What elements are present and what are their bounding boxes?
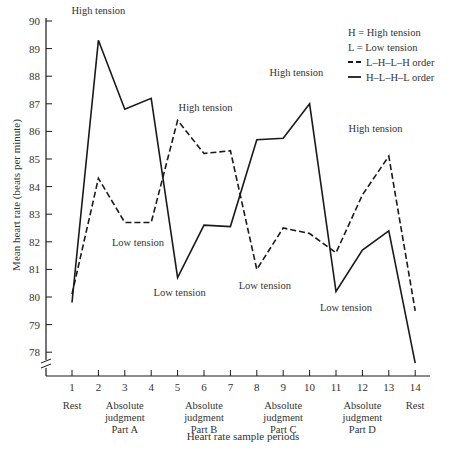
y-axis-title: Mean heart rate (beats per minute) [10, 119, 23, 271]
annotation-label: High tension [179, 102, 234, 113]
legend-note: H = High tension [348, 27, 421, 38]
x-tick-label: 6 [201, 381, 207, 393]
period-label: Absolute [264, 400, 302, 411]
y-tick-label: 80 [29, 291, 41, 303]
annotation-label: High tension [349, 123, 404, 134]
period-label: judgment [183, 412, 224, 423]
series-hlhl-line [72, 40, 415, 363]
annotation-label: Low tension [320, 302, 373, 313]
period-label: judgment [104, 412, 145, 423]
x-tick-label: 7 [228, 381, 234, 393]
annotation-label: Low tension [112, 237, 165, 248]
annotation-label: High tension [269, 67, 324, 78]
legend: H = High tensionL = Low tensionL–H–L–H o… [348, 27, 435, 83]
x-tick-label: 11 [331, 381, 342, 393]
x-axis: 1234567891011121314RestAbsolutejudgmentP… [46, 370, 430, 435]
legend-entry-label: L–H–L–H order [366, 57, 435, 68]
legend-note: L = Low tension [348, 42, 418, 53]
y-tick-label: 79 [29, 319, 41, 331]
y-tick-label: 89 [29, 43, 41, 55]
x-axis-title: Heart rate sample periods [187, 430, 300, 442]
heart-rate-chart: 78798081828384858687888990 1234567891011… [0, 0, 452, 454]
series-layer [72, 40, 415, 363]
x-tick-label: 5 [175, 381, 181, 393]
annotation-label: Low tension [153, 287, 206, 298]
y-tick-label: 87 [29, 98, 41, 110]
x-tick-label: 1 [69, 381, 75, 393]
annotation-label: High tension [71, 5, 126, 16]
period-label: Absolute [343, 400, 381, 411]
x-tick-label: 10 [304, 381, 316, 393]
period-label: judgment [262, 412, 303, 423]
period-label: Absolute [106, 400, 144, 411]
period-label: Rest [406, 400, 425, 411]
period-label: Part A [112, 424, 139, 435]
x-tick-label: 4 [148, 381, 154, 393]
period-label: Part D [349, 424, 377, 435]
y-tick-label: 82 [29, 236, 40, 248]
y-tick-label: 88 [29, 70, 41, 82]
annotation-label: Low tension [239, 280, 292, 291]
x-tick-label: 9 [280, 381, 286, 393]
y-tick-label: 90 [29, 15, 41, 27]
y-tick-label: 81 [29, 263, 40, 275]
y-axis: 78798081828384858687888990 [29, 15, 52, 376]
x-tick-label: 14 [410, 381, 422, 393]
legend-entry-label: H–L–H–L order [366, 72, 435, 83]
period-label: Absolute [185, 400, 223, 411]
period-label: Rest [63, 400, 82, 411]
y-tick-label: 78 [29, 346, 41, 358]
x-tick-label: 12 [357, 381, 368, 393]
y-tick-label: 85 [29, 153, 41, 165]
x-tick-label: 3 [122, 381, 128, 393]
period-label: judgment [342, 412, 383, 423]
x-tick-label: 8 [254, 381, 260, 393]
x-tick-label: 2 [96, 381, 102, 393]
y-tick-label: 83 [29, 208, 41, 220]
x-tick-label: 13 [383, 381, 395, 393]
y-tick-label: 84 [29, 181, 41, 193]
y-tick-label: 86 [29, 125, 41, 137]
